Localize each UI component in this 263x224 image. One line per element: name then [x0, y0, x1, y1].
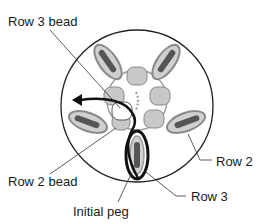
label-row2: Row 2	[216, 155, 253, 168]
label-row3: Row 3	[191, 190, 228, 203]
bead-top	[127, 67, 147, 85]
label-row3-bead: Row 3 bead	[8, 15, 77, 28]
bead-upper-right	[150, 87, 170, 105]
label-initial-peg: Initial peg	[73, 205, 129, 218]
label-row2-bead: Row 2 bead	[8, 175, 77, 188]
bead-lower-right	[144, 110, 164, 128]
